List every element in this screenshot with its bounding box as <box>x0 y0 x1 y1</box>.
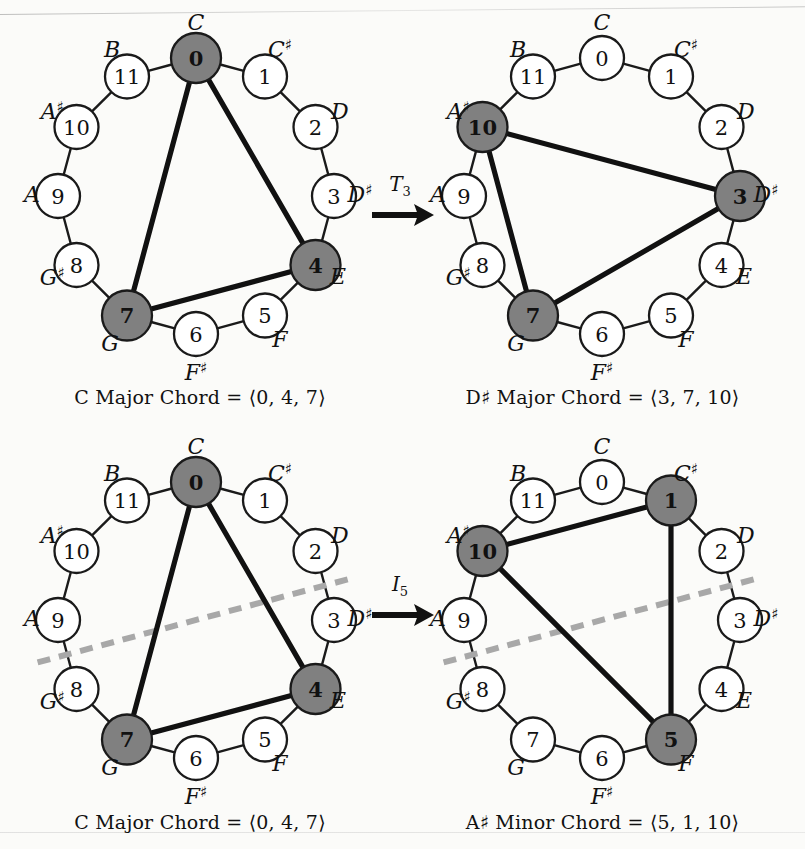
pitch-node-number-8: 8 <box>70 678 83 702</box>
note-name-letter-7: G <box>101 331 119 356</box>
note-name-label-11: B <box>509 461 526 486</box>
note-name-letter-0: C <box>188 10 205 35</box>
pitch-node-number-4: 4 <box>715 678 728 702</box>
ring-edge-7-8 <box>498 281 515 298</box>
note-name-label-5: F <box>271 327 288 352</box>
note-name-label-2: D <box>736 523 755 548</box>
pitch-node-6[interactable]: 6 <box>580 736 624 780</box>
pitch-node-number-1: 1 <box>258 489 271 513</box>
inversion-axis-line <box>38 578 355 663</box>
ring-edge-11-0 <box>148 64 172 70</box>
pitch-node-number-4: 4 <box>308 253 323 278</box>
pitch-node-number-10: 10 <box>468 539 497 564</box>
note-name-letter-1: C <box>674 37 691 62</box>
note-name-label-0: C <box>188 10 205 35</box>
arrow-bottom-label: I5 <box>360 572 440 599</box>
pitch-node-9[interactable]: 9 <box>442 598 486 642</box>
ring-edge-9-10 <box>470 575 476 599</box>
note-name-label-8: G♯ <box>446 264 471 290</box>
note-name-letter-6: F <box>590 784 607 809</box>
ring-edge-4-5 <box>281 283 298 300</box>
pitch-node-9[interactable]: 9 <box>36 174 80 218</box>
note-name-letter-11: B <box>103 37 120 62</box>
arrow-top-transposition: T3 <box>360 172 440 238</box>
note-name-letter-10: A <box>445 523 463 548</box>
pitch-node-6[interactable]: 6 <box>174 736 218 780</box>
pitch-node-6[interactable]: 6 <box>580 312 624 356</box>
note-name-label-8: G♯ <box>40 264 65 290</box>
ring-edge-4-5 <box>281 707 298 724</box>
note-name-letter-3: D <box>753 182 772 207</box>
pitch-node-number-0: 0 <box>189 470 204 495</box>
clock-diagram-bottom-right: 0C1C♯2D3D♯4E5F6F♯7G8G♯9A10A♯11B <box>400 420 805 849</box>
note-name-letter-6: F <box>184 784 201 809</box>
pitch-node-number-5: 5 <box>258 304 271 328</box>
pitch-node-number-0: 0 <box>595 471 608 495</box>
caption-bottom-right: A♯ Minor Chord = ⟨5, 1, 10⟩ <box>400 811 805 833</box>
note-name-label-4: E <box>329 688 346 713</box>
pitch-node-number-3: 3 <box>733 184 748 209</box>
pitch-node-number-2: 2 <box>309 540 322 564</box>
note-name-label-3: D♯ <box>753 181 779 207</box>
note-name-sharp-8: ♯ <box>463 688 470 706</box>
note-name-label-2: D <box>330 523 349 548</box>
note-name-label-6: F♯ <box>184 783 208 809</box>
caption-bottom-left: C Major Chord = ⟨0, 4, 7⟩ <box>0 811 400 833</box>
note-name-letter-1: C <box>268 37 285 62</box>
ring-edge-1-2 <box>281 92 300 111</box>
note-name-label-0: C <box>594 10 611 35</box>
note-name-letter-4: E <box>735 688 752 713</box>
pitch-node-number-1: 1 <box>258 65 271 89</box>
chord-edge-5-10 <box>500 569 653 722</box>
note-name-sharp-10: ♯ <box>463 522 470 540</box>
pitch-node-0[interactable]: 0 <box>171 33 221 83</box>
ring-edge-10-11 <box>500 516 517 533</box>
arrow-bottom-op: I <box>392 572 400 596</box>
arrow-bottom-sub: 5 <box>400 584 408 599</box>
pitch-node-number-6: 6 <box>595 747 608 771</box>
note-name-letter-2: D <box>330 99 349 124</box>
note-name-sharp-8: ♯ <box>463 264 470 282</box>
note-name-letter-1: C <box>674 461 691 486</box>
pitch-node-number-3: 3 <box>733 609 746 633</box>
note-name-letter-2: D <box>330 523 349 548</box>
note-name-letter-4: E <box>329 688 346 713</box>
note-name-label-4: E <box>329 264 346 289</box>
arrow-bottom-glyph <box>360 598 440 632</box>
pitch-node-0[interactable]: 0 <box>580 460 624 504</box>
pitch-node-number-4: 4 <box>715 254 728 278</box>
note-name-label-2: D <box>736 99 755 124</box>
note-name-letter-9: A <box>22 606 40 631</box>
pitch-node-number-6: 6 <box>595 323 608 347</box>
ring-edge-11-0 <box>554 488 580 495</box>
pitch-node-6[interactable]: 6 <box>174 312 218 356</box>
chord-edge-7-0 <box>133 506 189 715</box>
ring-edge-5-6 <box>217 321 243 328</box>
note-name-letter-0: C <box>594 434 611 459</box>
ring-edge-5-6 <box>623 746 647 752</box>
chord-edge-0-4 <box>209 504 304 668</box>
ring-edge-2-3 <box>727 148 733 172</box>
pitch-node-9[interactable]: 9 <box>36 598 80 642</box>
ring-edge-1-2 <box>687 92 706 111</box>
pitch-node-number-9: 9 <box>457 185 470 209</box>
pitch-node-9[interactable]: 9 <box>442 174 486 218</box>
pitch-node-number-9: 9 <box>51 185 64 209</box>
ring-edge-11-0 <box>554 64 580 71</box>
pitch-node-0[interactable]: 0 <box>580 36 624 80</box>
ring-edge-11-0 <box>148 488 172 494</box>
ring-edge-7-8 <box>498 705 517 724</box>
note-name-label-8: G♯ <box>446 688 471 714</box>
note-name-letter-6: F <box>590 360 607 385</box>
pitch-node-number-7: 7 <box>526 303 541 328</box>
arrow-top-label: T3 <box>360 172 440 199</box>
note-name-label-2: D <box>330 99 349 124</box>
note-name-label-1: C♯ <box>674 460 698 486</box>
note-name-label-1: C♯ <box>268 460 292 486</box>
ring-edge-4-5 <box>689 705 706 722</box>
ring-edge-9-10 <box>64 572 71 598</box>
note-name-letter-8: G <box>446 265 464 290</box>
note-name-sharp-10: ♯ <box>57 522 64 540</box>
pitch-node-0[interactable]: 0 <box>171 457 221 507</box>
note-name-sharp-1: ♯ <box>285 36 292 54</box>
